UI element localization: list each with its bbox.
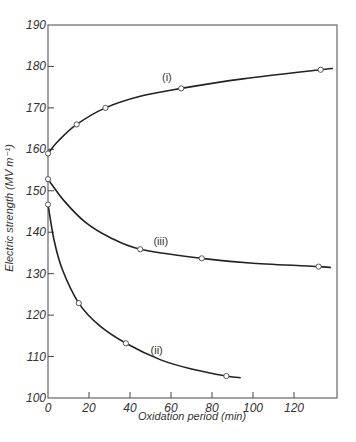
data-point-i bbox=[179, 86, 184, 91]
x-tick-label: 120 bbox=[284, 401, 304, 415]
data-point-iii bbox=[45, 177, 50, 182]
y-tick-label: 100 bbox=[26, 391, 46, 405]
data-point-ii bbox=[45, 202, 50, 207]
series-curve-i bbox=[48, 69, 333, 154]
data-point-i bbox=[103, 105, 108, 110]
series-curve-ii bbox=[48, 204, 241, 377]
y-axis-title: Electric strength (MV m⁻¹) bbox=[3, 144, 15, 272]
y-tick-label: 110 bbox=[27, 350, 46, 364]
y-tick-label: 130 bbox=[26, 267, 46, 281]
y-tick-label: 170 bbox=[26, 101, 46, 115]
data-point-i bbox=[318, 67, 323, 72]
plot-frame bbox=[48, 25, 337, 398]
x-tick-label: 40 bbox=[123, 401, 137, 415]
y-tick-label: 190 bbox=[26, 18, 46, 32]
series-curve-iii bbox=[48, 179, 331, 267]
x-tick-label: 20 bbox=[81, 401, 96, 415]
data-point-ii bbox=[224, 373, 229, 378]
y-tick-label: 180 bbox=[26, 59, 46, 73]
chart: 0204060801001201001101201301401501601701… bbox=[0, 0, 356, 442]
data-point-iii bbox=[199, 256, 204, 261]
y-tick-label: 150 bbox=[26, 184, 46, 198]
data-point-i bbox=[45, 151, 50, 156]
y-tick-label: 120 bbox=[26, 308, 46, 322]
data-point-i bbox=[74, 122, 79, 127]
x-axis-title: Oxidation period (min) bbox=[138, 410, 247, 422]
series-label-ii: (ii) bbox=[151, 344, 163, 356]
series-labels: (i)(ii)(iii) bbox=[151, 71, 172, 357]
data-point-iii bbox=[138, 247, 143, 252]
data-point-ii bbox=[76, 300, 81, 305]
y-tick-label: 140 bbox=[26, 225, 46, 239]
y-tick-label: 160 bbox=[26, 142, 46, 156]
data-point-ii bbox=[123, 341, 128, 346]
series-curves bbox=[48, 69, 333, 378]
series-label-i: (i) bbox=[162, 71, 172, 83]
series-label-iii: (iii) bbox=[153, 235, 168, 247]
data-point-iii bbox=[316, 264, 321, 269]
